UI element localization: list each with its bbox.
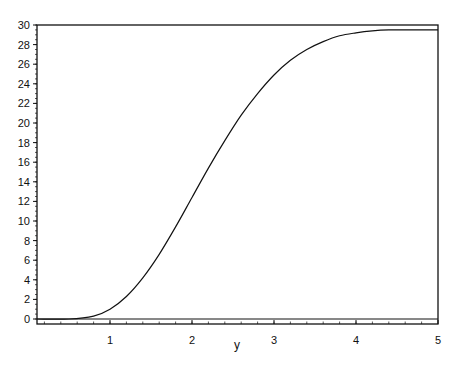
y-tick-label: 4 bbox=[24, 274, 30, 286]
y-tick-label: 10 bbox=[18, 215, 30, 227]
plot-frame bbox=[37, 25, 438, 324]
y-tick-label: 2 bbox=[24, 293, 30, 305]
x-tick-label: 4 bbox=[353, 334, 359, 346]
y-tick-label: 8 bbox=[24, 235, 30, 247]
y-axis: 024681012141618202224262830 bbox=[18, 19, 37, 325]
y-tick-label: 6 bbox=[24, 254, 30, 266]
y-tick-label: 16 bbox=[18, 156, 30, 168]
line-chart: 024681012141618202224262830 12345 y bbox=[0, 0, 458, 365]
y-tick-label: 14 bbox=[18, 176, 30, 188]
y-tick-label: 0 bbox=[24, 313, 30, 325]
y-tick-label: 28 bbox=[18, 39, 30, 51]
y-tick-label: 24 bbox=[18, 78, 30, 90]
x-axis-title: y bbox=[234, 338, 240, 352]
y-tick-label: 22 bbox=[18, 97, 30, 109]
y-tick-label: 26 bbox=[18, 58, 30, 70]
x-tick-label: 5 bbox=[435, 334, 441, 346]
x-tick-label: 1 bbox=[107, 334, 113, 346]
plot-border bbox=[37, 25, 438, 324]
data-line bbox=[37, 30, 438, 319]
y-tick-label: 12 bbox=[18, 195, 30, 207]
x-tick-label: 3 bbox=[271, 334, 277, 346]
x-tick-label: 2 bbox=[189, 334, 195, 346]
y-tick-label: 18 bbox=[18, 137, 30, 149]
y-tick-label: 30 bbox=[18, 19, 30, 31]
y-tick-label: 20 bbox=[18, 117, 30, 129]
